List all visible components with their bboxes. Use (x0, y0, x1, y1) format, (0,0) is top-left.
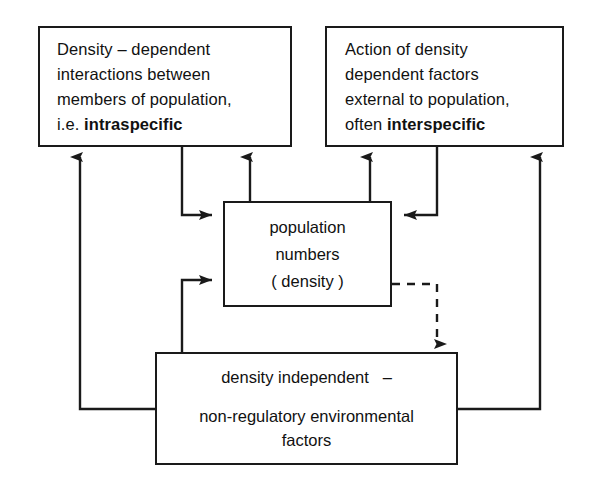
box-text-line-4-prefix: i.e. (57, 115, 84, 133)
box-density-dependent-external-interspecific: Action of density dependent factors exte… (325, 26, 564, 147)
connector-bottom-to-top-right (458, 157, 540, 409)
box-text-line-3: ( density ) (271, 268, 343, 295)
box-text-line-2: non-regulatory environmental factors (199, 404, 414, 452)
box-text-line-1: density independent – (221, 366, 392, 388)
connector-center-to-bottom-dashed (392, 284, 437, 344)
box-text-line-4: i.e. intraspecific (57, 112, 183, 137)
connector-top-right-to-center (404, 147, 437, 215)
box-text-line-1: Action of density (345, 37, 468, 62)
box-text-line-4-emphasis: intraspecific (84, 115, 183, 133)
box-text-line-4-emphasis: interspecific (387, 115, 486, 133)
box-population-numbers: population numbers ( density ) (223, 201, 392, 307)
box-density-independent-factors: density independent – non-regulatory env… (155, 352, 458, 465)
box-text-line-2: interactions between (57, 62, 210, 87)
box-text-line-3: external to population, (345, 87, 510, 112)
box-text-line-1: population (269, 214, 345, 241)
box-density-dependent-intraspecific: Density – dependent interactions between… (38, 26, 292, 147)
box-text-line-1: Density – dependent (57, 37, 210, 62)
connector-top-left-to-center (182, 147, 212, 215)
box-text-line-2: dependent factors (345, 62, 479, 87)
connector-bottom-to-center (182, 280, 212, 352)
diagram-canvas: Density – dependent interactions between… (0, 0, 605, 483)
box-text-line-3: members of population, (57, 87, 232, 112)
box-text-line-4: often interspecific (345, 112, 485, 137)
box-text-line-4-prefix: often (345, 115, 387, 133)
box-text-line-2: numbers (275, 241, 339, 268)
connector-bottom-to-top-left (80, 157, 155, 409)
